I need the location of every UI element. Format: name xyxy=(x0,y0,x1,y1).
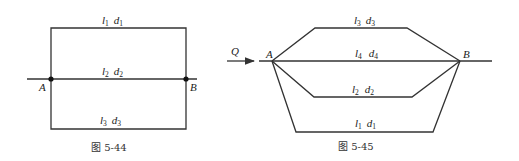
pipe-label-1: l1d1 xyxy=(355,117,376,131)
figure-5-45: Q l3d3 l4d4 l2d2 l1d1 A B 图 5-45 xyxy=(227,14,492,152)
flow-label-q: Q xyxy=(231,45,239,57)
node-b-dot xyxy=(183,76,188,81)
node-a-label: A xyxy=(265,48,273,60)
pipe-l3-d3 xyxy=(272,28,460,61)
diagram-canvas: l1d1 l2d2 l3d3 A B 图 5-44 Q l3d3 l4d4 l2… xyxy=(0,0,519,161)
node-a-label: A xyxy=(38,81,46,93)
node-b-label: B xyxy=(463,48,470,60)
pipe-label-2: l2d2 xyxy=(102,65,123,79)
pipe-label-4: l4d4 xyxy=(355,47,378,61)
node-b-label: B xyxy=(190,81,197,93)
pipe-label-1: l1d1 xyxy=(102,14,123,28)
figure-5-44: l1d1 l2d2 l3d3 A B 图 5-44 xyxy=(27,14,197,153)
figure-caption: 图 5-44 xyxy=(91,142,127,153)
figure-caption: 图 5-45 xyxy=(338,141,374,152)
pipe-label-3: l3d3 xyxy=(100,114,121,128)
pipe-label-3: l3d3 xyxy=(354,14,375,28)
node-a-dot xyxy=(48,76,53,81)
pipe-label-2: l2d2 xyxy=(352,83,374,97)
